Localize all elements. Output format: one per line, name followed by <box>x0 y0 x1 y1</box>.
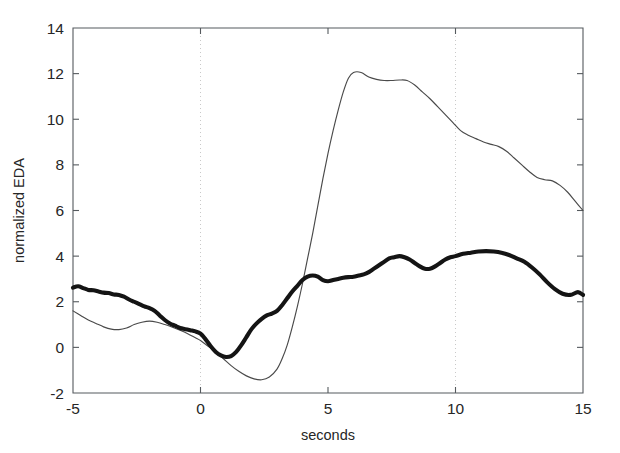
vertical-marker-group <box>201 28 456 393</box>
y-tick-label: 4 <box>55 248 64 265</box>
y-tick-label: 12 <box>47 65 64 82</box>
x-tick-label: 5 <box>324 400 333 417</box>
y-tick-label: 6 <box>55 202 64 219</box>
plot-frame <box>73 28 583 393</box>
y-tick-label: 2 <box>55 293 64 310</box>
x-axis-ticks: -5051015 <box>66 28 592 417</box>
y-axis-ticks: -202468101214 <box>47 20 583 402</box>
x-tick-label: 10 <box>447 400 465 417</box>
series-line-thick-trace <box>73 251 583 357</box>
series-line-thin-trace <box>73 72 583 380</box>
x-tick-label: 0 <box>196 400 205 417</box>
x-tick-label: 15 <box>574 400 591 417</box>
y-tick-label: 10 <box>47 111 65 128</box>
y-tick-label: 0 <box>55 339 64 356</box>
y-axis-title: normalized EDA <box>11 158 27 263</box>
x-tick-label: -5 <box>66 400 80 417</box>
y-tick-label: 14 <box>47 20 65 37</box>
axes-frame <box>73 28 583 393</box>
y-tick-label: -2 <box>50 385 64 402</box>
x-axis-title: seconds <box>301 427 355 443</box>
line-chart: -5051015 -202468101214 seconds normalize… <box>0 0 620 453</box>
y-tick-label: 8 <box>55 156 64 173</box>
chart-figure: -5051015 -202468101214 seconds normalize… <box>0 0 620 453</box>
data-series-group <box>73 72 583 380</box>
